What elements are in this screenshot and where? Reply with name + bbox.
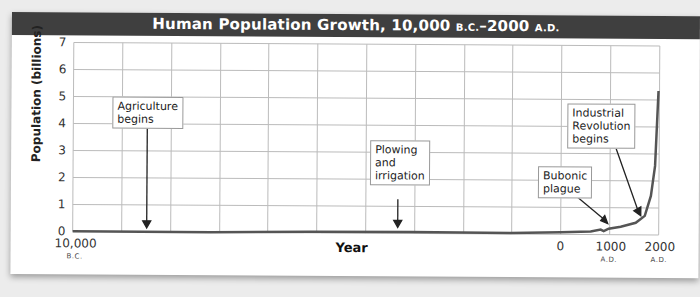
y-tick: 5 <box>58 89 66 103</box>
y-tick: 4 <box>58 116 66 130</box>
x-tick-era: B.C. <box>66 252 82 260</box>
x-tick: 0 <box>557 239 565 253</box>
annotation-agriculture: Agriculturebegins <box>112 97 183 129</box>
x-tick: 2000 <box>645 240 676 254</box>
x-tick: 10,000 <box>55 236 97 250</box>
chart-card: Human Population Growth, 10,000 B.C.–200… <box>10 12 700 278</box>
x-tick: 1000 <box>596 240 627 254</box>
annotation-plowing: Plowingandirrigation <box>370 140 430 185</box>
y-axis-label: Population (billions) <box>29 25 44 162</box>
annotation-industrial-revolution: IndustrialRevolutionbegins <box>567 103 636 148</box>
y-tick: 1 <box>58 197 66 211</box>
annotation-bubonic-plague: Bubonicplague <box>538 166 593 198</box>
x-axis-label: Year <box>336 240 368 255</box>
y-tick: 2 <box>58 170 66 184</box>
y-tick: 3 <box>58 143 66 157</box>
x-tick-era: A.D. <box>650 256 667 264</box>
y-tick: 6 <box>59 62 67 76</box>
x-tick-era: A.D. <box>600 256 617 264</box>
y-tick: 7 <box>59 35 67 49</box>
